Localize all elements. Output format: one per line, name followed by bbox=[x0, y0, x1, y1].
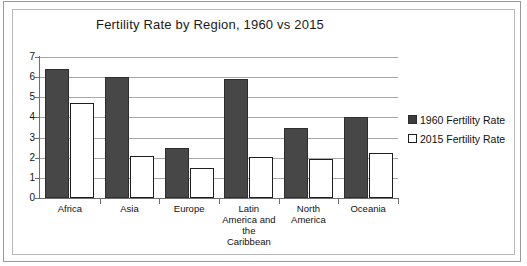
bar-group bbox=[100, 57, 160, 198]
y-axis-tick-mark bbox=[35, 138, 39, 139]
y-axis-tick-label: 2 bbox=[9, 153, 35, 163]
y-axis-tick-label: 1 bbox=[9, 173, 35, 183]
bar-group bbox=[338, 57, 398, 198]
category-label: Asia bbox=[100, 203, 160, 214]
y-axis-tick-label: 3 bbox=[9, 133, 35, 143]
category-label-line: Oceania bbox=[338, 203, 398, 214]
y-axis: 76543210 bbox=[4, 0, 35, 266]
bar-1960 bbox=[45, 69, 69, 198]
legend-item: 2015 Fertility Rate bbox=[408, 129, 520, 148]
y-axis-tick-label: 5 bbox=[9, 92, 35, 102]
bar-1960 bbox=[344, 117, 368, 198]
y-axis-tick-mark bbox=[35, 198, 39, 199]
bar-2015 bbox=[190, 168, 214, 198]
category-label: LatinAmerica andtheCaribbean bbox=[219, 203, 279, 247]
category-label-line: America and bbox=[219, 214, 279, 225]
category-label-line: the bbox=[219, 225, 279, 236]
chart-title: Fertility Rate by Region, 1960 vs 2015 bbox=[0, 17, 420, 32]
y-axis-tick-mark bbox=[35, 77, 39, 78]
y-axis-tick-label: 0 bbox=[9, 193, 35, 203]
bar-2015 bbox=[369, 153, 393, 198]
y-axis-tick-label: 6 bbox=[9, 72, 35, 82]
category-label: NorthAmerica bbox=[279, 203, 339, 225]
category-label-line: America bbox=[279, 214, 339, 225]
y-axis-tick-mark bbox=[35, 57, 39, 58]
y-axis-tick-mark bbox=[35, 158, 39, 159]
bar-group bbox=[159, 57, 219, 198]
y-axis-tick-label: 4 bbox=[9, 112, 35, 122]
category-label-line: Africa bbox=[40, 203, 100, 214]
legend-item: 1960 Fertility Rate bbox=[408, 110, 520, 129]
category-tick bbox=[398, 199, 399, 204]
bar-group bbox=[279, 57, 339, 198]
bar-1960 bbox=[105, 77, 129, 198]
category-label: Europe bbox=[159, 203, 219, 214]
category-label-line: North bbox=[279, 203, 339, 214]
legend-swatch-1960 bbox=[408, 115, 417, 124]
plot-area bbox=[40, 57, 398, 198]
category-label-line: Asia bbox=[100, 203, 160, 214]
legend-label: 1960 Fertility Rate bbox=[420, 114, 505, 126]
bar-group bbox=[40, 57, 100, 198]
bar-2015 bbox=[70, 103, 94, 198]
bar-1960 bbox=[165, 148, 189, 198]
chart-legend: 1960 Fertility Rate2015 Fertility Rate bbox=[408, 110, 520, 148]
bar-1960 bbox=[224, 79, 248, 198]
bar-2015 bbox=[309, 159, 333, 198]
category-label: Oceania bbox=[338, 203, 398, 214]
y-axis-tick-mark bbox=[35, 97, 39, 98]
category-label-line: Europe bbox=[159, 203, 219, 214]
bar-group bbox=[219, 57, 279, 198]
y-axis-tick-label: 7 bbox=[9, 52, 35, 62]
y-axis-tick-mark bbox=[35, 178, 39, 179]
y-axis-tick-mark bbox=[35, 117, 39, 118]
legend-label: 2015 Fertility Rate bbox=[420, 133, 505, 145]
legend-swatch-2015 bbox=[408, 134, 417, 143]
category-label-line: Caribbean bbox=[219, 236, 279, 247]
bar-2015 bbox=[130, 156, 154, 198]
bar-2015 bbox=[249, 157, 273, 198]
bar-1960 bbox=[284, 128, 308, 199]
category-label-line: Latin bbox=[219, 203, 279, 214]
chart-screenshot: Fertility Rate by Region, 1960 vs 2015 7… bbox=[0, 0, 527, 266]
category-label: Africa bbox=[40, 203, 100, 214]
